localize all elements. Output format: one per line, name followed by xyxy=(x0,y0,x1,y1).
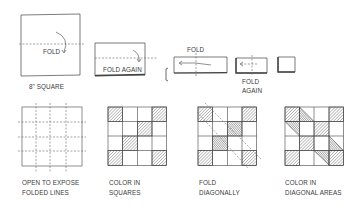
caption-color-diag-line1: COLOR IN xyxy=(285,179,316,188)
grid-color-diagonal xyxy=(285,107,344,166)
grid-fold-diagonal xyxy=(197,103,262,168)
caption-color-line2: SQUARES xyxy=(109,189,141,198)
caption-fold-diag-line2: DIAGONALLY xyxy=(199,189,240,198)
fold-again-label-1: FOLD AGAIN xyxy=(103,66,142,75)
caption-open-line1: OPEN TO EXPOSE xyxy=(22,179,79,188)
fold-label-1: FOLD xyxy=(43,48,60,57)
grid-color-squares xyxy=(108,107,167,166)
step-small-rect xyxy=(236,55,267,76)
caption-color-diag-line2: DIAGONAL AREAS xyxy=(285,189,342,198)
step-square xyxy=(19,14,84,76)
folding-diagram xyxy=(0,0,348,206)
caption-color-line1: COLOR IN xyxy=(109,179,140,188)
fold-label-2: FOLD xyxy=(187,46,204,55)
fold-again-label-2-line2: AGAIN xyxy=(242,87,262,96)
step-fold-strip xyxy=(174,53,227,77)
step-fold-again xyxy=(95,43,168,81)
caption-open-line2: FOLDED LINES xyxy=(22,189,69,198)
caption-fold-diag-line1: FOLD xyxy=(199,179,216,188)
square-size-caption: 8" SQUARE xyxy=(29,83,64,92)
grid-folded-lines xyxy=(18,103,86,172)
step-folded-square xyxy=(278,57,295,72)
